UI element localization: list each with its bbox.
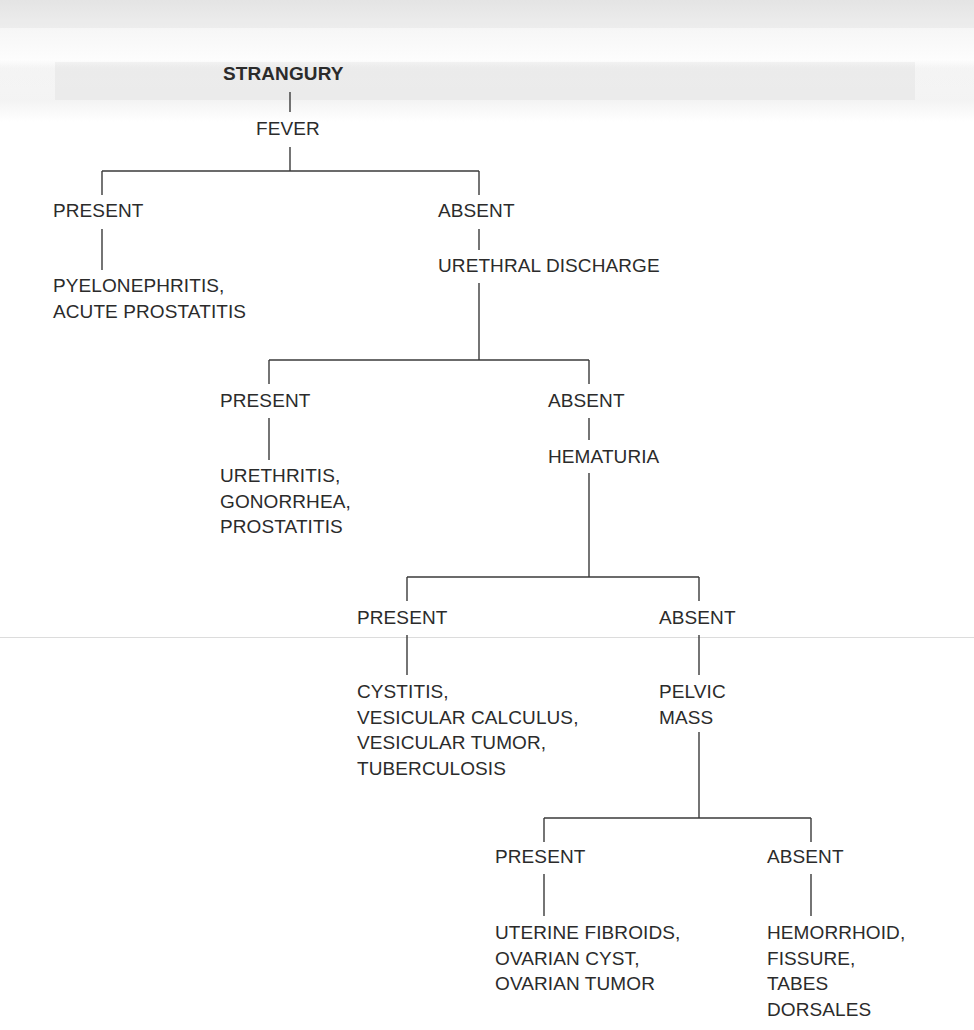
result-line: DORSALES xyxy=(767,997,905,1023)
result-line: ACUTE PROSTATITIS xyxy=(53,299,246,325)
branch-label: ABSENT xyxy=(438,200,515,221)
branch-label-fever-present: PRESENT xyxy=(53,198,143,224)
branch-label: PRESENT xyxy=(357,607,447,628)
branch-label: ABSENT xyxy=(767,846,844,867)
branch-label-hematuria-absent: ABSENT xyxy=(659,605,736,631)
branch-label-hematuria-present: PRESENT xyxy=(357,605,447,631)
result-line: OVARIAN TUMOR xyxy=(495,971,680,997)
result-line: VESICULAR TUMOR, xyxy=(357,730,579,756)
question-node-hematuria: HEMATURIA xyxy=(548,444,659,470)
result-node-hemorrhoid: HEMORRHOID, FISSURE, TABES DORSALES xyxy=(767,920,905,1022)
question-line: MASS xyxy=(659,705,726,731)
branch-label: PRESENT xyxy=(53,200,143,221)
branch-label-pelvic-absent: ABSENT xyxy=(767,844,844,870)
question-label: HEMATURIA xyxy=(548,446,659,467)
result-line: UTERINE FIBROIDS, xyxy=(495,920,680,946)
root-label: STRANGURY xyxy=(223,63,344,84)
root-node-strangury: STRANGURY xyxy=(223,61,344,87)
branch-label: PRESENT xyxy=(220,390,310,411)
question-node-urethral-discharge: URETHRAL DISCHARGE xyxy=(438,253,660,279)
branch-label: PRESENT xyxy=(495,846,585,867)
result-line: URETHRITIS, xyxy=(220,463,351,489)
question-node-fever: FEVER xyxy=(256,116,320,142)
result-node-urethritis: URETHRITIS, GONORRHEA, PROSTATITIS xyxy=(220,463,351,540)
result-line: PYELONEPHRITIS, xyxy=(53,273,246,299)
result-line: FISSURE, xyxy=(767,946,905,972)
branch-label: ABSENT xyxy=(548,390,625,411)
question-line: PELVIC xyxy=(659,679,726,705)
result-node-pyelonephritis: PYELONEPHRITIS, ACUTE PROSTATITIS xyxy=(53,273,246,324)
result-line: CYSTITIS, xyxy=(357,679,579,705)
branch-label-pelvic-present: PRESENT xyxy=(495,844,585,870)
tree-connectors xyxy=(0,0,974,1030)
result-line: GONORRHEA, xyxy=(220,489,351,515)
result-line: TABES xyxy=(767,971,905,997)
question-label: URETHRAL DISCHARGE xyxy=(438,255,660,276)
branch-label: ABSENT xyxy=(659,607,736,628)
result-node-uterine-fibroids: UTERINE FIBROIDS, OVARIAN CYST, OVARIAN … xyxy=(495,920,680,997)
question-node-pelvic-mass: PELVIC MASS xyxy=(659,679,726,730)
result-line: OVARIAN CYST, xyxy=(495,946,680,972)
branch-label-urethral-absent: ABSENT xyxy=(548,388,625,414)
result-node-cystitis: CYSTITIS, VESICULAR CALCULUS, VESICULAR … xyxy=(357,679,579,781)
branch-label-fever-absent: ABSENT xyxy=(438,198,515,224)
result-line: HEMORRHOID, xyxy=(767,920,905,946)
question-label: FEVER xyxy=(256,118,320,139)
result-line: PROSTATITIS xyxy=(220,514,351,540)
branch-label-urethral-present: PRESENT xyxy=(220,388,310,414)
strangury-decision-tree: STRANGURY FEVER PRESENT ABSENT PYELONEPH… xyxy=(0,0,974,1030)
result-line: TUBERCULOSIS xyxy=(357,756,579,782)
result-line: VESICULAR CALCULUS, xyxy=(357,705,579,731)
